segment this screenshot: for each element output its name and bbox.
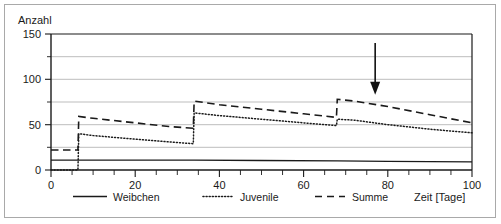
x-axis-title: Zeit [Tage]	[414, 191, 465, 203]
legend-label-weibchen: Weibchen	[113, 191, 160, 203]
y-tick-label-0: 0	[35, 164, 41, 176]
y-tick-label-150: 150	[23, 28, 41, 40]
line-chart: Anzahl 150 100 50 0 0 20 40 60 80 100 We…	[0, 0, 501, 224]
x-tick-label-60: 60	[297, 179, 309, 191]
legend-label-juvenile: Juvenile	[240, 191, 279, 203]
x-tick-label-0: 0	[48, 179, 54, 191]
x-axis-ticks	[51, 170, 472, 177]
data-series-group	[51, 99, 472, 170]
legend-label-summe: Summe	[352, 191, 388, 203]
gridlines	[51, 57, 472, 148]
x-tick-label-100: 100	[463, 179, 481, 191]
y-tick-label-100: 100	[23, 73, 41, 85]
figure-container: Anzahl 150 100 50 0 0 20 40 60 80 100 We…	[0, 0, 501, 224]
x-tick-label-40: 40	[213, 179, 225, 191]
legend: Weibchen Juvenile Summe	[73, 191, 388, 203]
x-tick-label-20: 20	[129, 179, 141, 191]
y-tick-label-50: 50	[29, 119, 41, 131]
series-line-weibchen	[51, 160, 472, 162]
down-arrow-annotation	[370, 43, 380, 95]
y-axis-ticks	[45, 34, 51, 170]
arrow-head-icon	[370, 82, 380, 95]
y-axis-title: Anzahl	[18, 14, 52, 26]
x-tick-label-80: 80	[382, 179, 394, 191]
